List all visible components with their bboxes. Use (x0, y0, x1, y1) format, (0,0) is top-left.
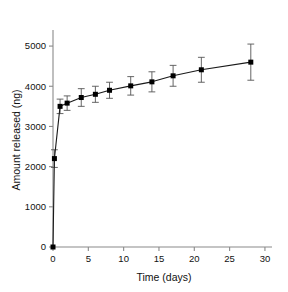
data-point-marker (79, 95, 84, 100)
axis-lines (53, 30, 272, 247)
x-tick-label: 25 (224, 253, 235, 264)
release-profile-chart: 010002000300040005000 051015202530 Time … (0, 0, 288, 292)
y-axis-title: Amount released (ng) (10, 90, 22, 191)
y-axis-ticks: 010002000300040005000 (25, 40, 53, 252)
data-point-marker (58, 104, 63, 109)
y-tick-label: 4000 (25, 81, 46, 92)
data-point-marker (171, 73, 176, 78)
x-axis-ticks: 051015202530 (50, 247, 270, 264)
y-tick-label: 0 (41, 241, 46, 252)
data-point-marker (128, 83, 133, 88)
x-tick-label: 15 (154, 253, 165, 264)
y-tick-label: 3000 (25, 121, 46, 132)
data-point-marker (52, 156, 57, 161)
data-point-marker (93, 92, 98, 97)
data-point-marker (65, 101, 70, 106)
y-tick-label: 1000 (25, 201, 46, 212)
x-axis-title: Time (days) (136, 271, 191, 283)
data-point-marker (199, 67, 204, 72)
x-tick-label: 20 (189, 253, 200, 264)
data-point-marker (51, 245, 56, 250)
error-bars (51, 44, 254, 167)
data-point-marker (248, 60, 253, 65)
x-tick-label: 30 (260, 253, 271, 264)
data-point-marker (107, 88, 112, 93)
x-tick-label: 5 (86, 253, 91, 264)
y-tick-label: 5000 (25, 40, 46, 51)
x-tick-label: 0 (50, 253, 55, 264)
chart-figure: 010002000300040005000 051015202530 Time … (0, 0, 288, 292)
data-point-marker (149, 79, 154, 84)
y-tick-label: 2000 (25, 161, 46, 172)
x-tick-label: 10 (118, 253, 129, 264)
